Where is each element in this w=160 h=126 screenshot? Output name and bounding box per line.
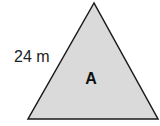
region-label: A <box>85 70 97 87</box>
side-length-label: 24 m <box>14 48 50 65</box>
triangle-diagram: 24 m A <box>0 0 160 126</box>
